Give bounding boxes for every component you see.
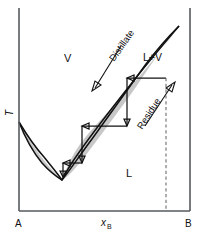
phase-diagram-figure: Distillate Residue V L L+V T A B x B: [0, 0, 199, 240]
y-axis-label: T: [4, 109, 15, 116]
two-phase-region-label: L+V: [143, 51, 162, 63]
x-axis-label-subscript: B: [107, 223, 112, 230]
phase-diagram-svg: Distillate Residue V L L+V T A B x B: [0, 0, 199, 240]
x-axis-right-end-label: B: [185, 218, 192, 229]
vapor-region-label: V: [64, 52, 72, 64]
liquid-region-label: L: [126, 167, 132, 179]
x-axis-label: x: [100, 217, 107, 228]
x-axis-left-end-label: A: [15, 218, 22, 229]
